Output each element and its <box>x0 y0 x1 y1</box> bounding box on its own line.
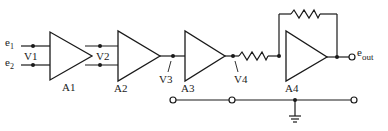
output-subscript: out <box>362 52 374 62</box>
input-e2-subscript: 2 <box>10 62 14 71</box>
node-v3 <box>171 54 175 58</box>
label-a2: A2 <box>114 82 127 94</box>
label-v1: V1 <box>24 50 37 62</box>
amplifier-a2 <box>118 31 160 81</box>
svg-text:eout: eout <box>357 46 374 62</box>
node-v2-top <box>98 44 102 48</box>
amplifier-a1 <box>50 32 92 80</box>
label-a4: A4 <box>285 82 299 94</box>
ground-icon <box>289 100 301 122</box>
node-v4 <box>231 54 235 58</box>
label-v4: V4 <box>234 73 248 85</box>
terminal-1 <box>170 97 176 103</box>
node-v2-bottom <box>98 63 102 67</box>
label-v3: V3 <box>159 73 173 85</box>
node-output <box>335 55 339 59</box>
label-a3: A3 <box>181 82 195 94</box>
output-terminal <box>349 54 355 60</box>
v3-leader <box>168 61 171 72</box>
svg-text:e1: e1 <box>5 36 14 51</box>
input-e1: e1 <box>5 36 50 51</box>
svg-text:e2: e2 <box>5 56 14 71</box>
terminal-3 <box>351 97 357 103</box>
feedback-resistor <box>291 10 320 18</box>
label-a1: A1 <box>62 81 75 93</box>
amplifier-chain-diagram: e1 e2 V1 A1 V2 A2 V3 A3 V4 A4 eout <box>0 0 388 131</box>
terminal-2 <box>229 97 235 103</box>
input-resistor <box>239 52 268 60</box>
amplifier-a3 <box>185 31 225 81</box>
node-e1-dot <box>31 44 35 48</box>
amplifier-a4 <box>286 31 327 81</box>
input-e1-subscript: 1 <box>10 42 14 51</box>
v4-leader <box>235 61 238 72</box>
node-e2-dot <box>31 63 35 67</box>
label-v2: V2 <box>96 50 109 62</box>
